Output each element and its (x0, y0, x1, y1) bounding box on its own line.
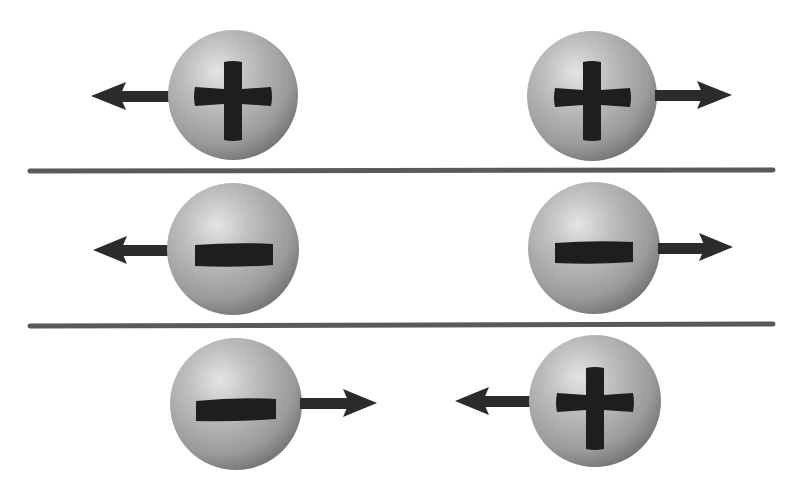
charge-interaction-diagram (0, 0, 799, 491)
negative-charge-sphere (528, 182, 660, 314)
divider-line (30, 324, 773, 326)
row-like-negative-repel (93, 182, 733, 315)
minus-icon (196, 398, 276, 421)
row-unlike-attract (170, 335, 661, 470)
force-arrow-right (655, 81, 732, 109)
force-arrow-right (300, 389, 377, 417)
positive-charge-sphere (527, 31, 657, 161)
force-arrow-left (93, 236, 173, 264)
force-arrow-right (658, 233, 733, 261)
row-like-positive-repel (91, 30, 732, 161)
force-arrow-left (91, 82, 173, 110)
negative-charge-sphere (170, 338, 302, 470)
minus-icon (195, 243, 273, 267)
negative-charge-sphere (167, 183, 299, 315)
positive-charge-sphere (529, 335, 661, 467)
positive-charge-sphere (168, 30, 298, 160)
force-arrow-left (455, 387, 535, 415)
divider-line (30, 170, 773, 171)
minus-icon (555, 241, 633, 264)
